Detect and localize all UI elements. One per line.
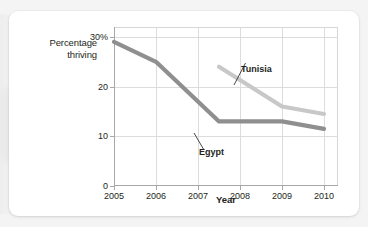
x-tick-2005 bbox=[114, 186, 115, 190]
y-axis-title-line2: thriving bbox=[13, 49, 97, 61]
x-axis-title: Year bbox=[114, 194, 338, 205]
series-lines-layer bbox=[114, 27, 338, 186]
x-tick-2006 bbox=[156, 186, 157, 190]
y-tick-label-10: 10 bbox=[98, 131, 108, 141]
series-label-tunisia: Tunisia bbox=[241, 64, 272, 74]
x-tick-2007 bbox=[198, 186, 199, 190]
plot-area: 0 10 20 30% 2005 2006 2007 2008 2009 201… bbox=[114, 27, 338, 186]
y-tick-label-20: 20 bbox=[98, 82, 108, 92]
x-tick-2008 bbox=[240, 186, 241, 190]
line-chart-figure: Percentage thriving 0 10 20 bbox=[9, 11, 359, 216]
x-tick-2009 bbox=[282, 186, 283, 190]
y-axis-title-line1: Percentage bbox=[13, 37, 97, 49]
y-tick-label-30: 30% bbox=[90, 32, 108, 42]
y-axis-title: Percentage thriving bbox=[13, 37, 97, 60]
series-label-egypt: Egypt bbox=[199, 147, 224, 157]
x-tick-2010 bbox=[324, 186, 325, 190]
y-tick-label-0: 0 bbox=[103, 181, 108, 191]
series-line-egypt bbox=[114, 42, 324, 129]
figure-card: Percentage thriving 0 10 20 bbox=[9, 11, 359, 216]
